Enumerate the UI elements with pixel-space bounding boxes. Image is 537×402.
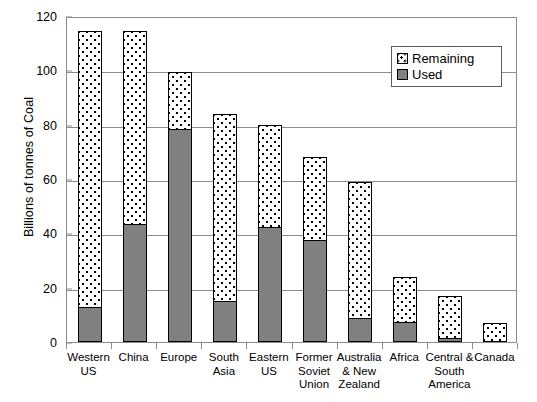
x-axis-label-line: Africa [379,351,430,365]
y-tick-mark-80 [66,125,72,126]
bar-china [123,31,147,342]
x-axis-label-line: & New [334,365,385,379]
bar-canada [483,323,507,342]
x-tick-mark-9 [517,343,518,349]
bar-segment-used [348,318,372,342]
x-tick-mark-5 [337,343,338,349]
legend-item-remaining: Remaining [397,52,496,65]
x-axis-label-line: Union [289,378,340,392]
x-axis-label-line: US [63,365,114,379]
x-tick-mark-6 [382,343,383,349]
x-axis-label-line: Europe [153,351,204,365]
x-axis-label-1: China [108,351,159,365]
x-tick-mark-4 [292,343,293,349]
x-axis-label-6: Australia& NewZealand [334,351,385,392]
x-axis-label-line: Zealand [334,378,385,392]
y-tick-label-0: 0 [50,336,66,350]
y-tick-mark-20 [66,288,72,289]
y-tick-mark-60 [66,180,72,181]
y-axis-ticks: 020406080100120 [0,0,66,326]
y-tick-label-100: 100 [36,64,66,78]
y-tick-mark-0 [66,343,72,344]
x-axis-label-8: Central &SouthAmerica [424,351,475,392]
bar-segment-used [258,227,282,342]
bar-segment-remaining [213,114,237,301]
bar-central-south-america [438,296,462,342]
bar-segment-remaining [78,31,102,307]
legend-label-used: Used [412,68,442,81]
bar-segment-remaining [168,72,192,129]
bar-segment-used [168,129,192,342]
coal-reserves-chart: Billions of tonnes of Coal 0204060801001… [0,0,537,402]
x-tick-mark-8 [472,343,473,349]
x-axis-label-line: America [424,378,475,392]
bar-segment-used [213,301,237,342]
y-tick-label-80: 80 [43,119,66,133]
bar-segment-remaining [258,125,282,227]
bar-segment-remaining [123,31,147,224]
chart-legend: Remaining Used [391,46,502,87]
x-tick-mark-origin [66,343,67,349]
x-axis-label-line: US [243,365,294,379]
legend-swatch-remaining-icon [397,53,408,64]
y-tick-label-60: 60 [43,173,66,187]
bar-segment-remaining [438,296,462,338]
bar-africa [393,277,417,342]
x-tick-mark-0 [111,343,112,349]
x-axis-label-line: Canada [469,351,520,365]
y-tick-mark-120 [66,17,72,18]
y-tick-label-40: 40 [43,227,66,241]
x-axis-label-4: EasternUS [243,351,294,378]
y-tick-label-120: 120 [36,10,66,24]
x-axis-label-0: WesternUS [63,351,114,378]
x-axis-label-line: South [424,365,475,379]
x-axis-label-9: Canada [469,351,520,365]
x-tick-mark-3 [246,343,247,349]
bar-segment-used [438,338,462,342]
x-axis-label-7: Africa [379,351,430,365]
bar-south-asia [213,114,237,342]
legend-swatch-used-icon [397,69,408,80]
x-axis-label-5: FormerSovietUnion [289,351,340,392]
bar-segment-remaining [393,277,417,322]
bar-segment-remaining [303,157,327,240]
x-axis-label-line: Soviet [289,365,340,379]
bar-europe [168,72,192,342]
x-tick-mark-1 [156,343,157,349]
bar-segment-remaining [348,182,372,318]
bar-western-us [78,31,102,342]
x-tick-mark-2 [201,343,202,349]
x-axis-label-line: South [198,351,249,365]
legend-label-remaining: Remaining [412,52,474,65]
x-tick-mark-7 [427,343,428,349]
x-axis-label-line: Eastern [243,351,294,365]
y-tick-mark-40 [66,234,72,235]
bar-segment-used [78,307,102,342]
bar-segment-used [123,224,147,342]
legend-item-used: Used [397,68,496,81]
x-axis-label-line: Asia [198,365,249,379]
y-tick-mark-100 [66,71,72,72]
bar-segment-remaining [483,323,507,342]
x-axis-label-3: SouthAsia [198,351,249,378]
x-axis-label-line: Central & [424,351,475,365]
bar-segment-used [393,322,417,342]
bar-segment-used [303,240,327,342]
x-axis-label-line: Western [63,351,114,365]
x-axis-label-line: China [108,351,159,365]
x-axis-label-line: Former [289,351,340,365]
y-tick-label-20: 20 [43,282,66,296]
bar-australia-new-zealand [348,182,372,342]
x-axis-label-2: Europe [153,351,204,365]
x-axis-label-line: Australia [334,351,385,365]
bar-eastern-us [258,125,282,342]
bar-former-soviet-union [303,157,327,342]
